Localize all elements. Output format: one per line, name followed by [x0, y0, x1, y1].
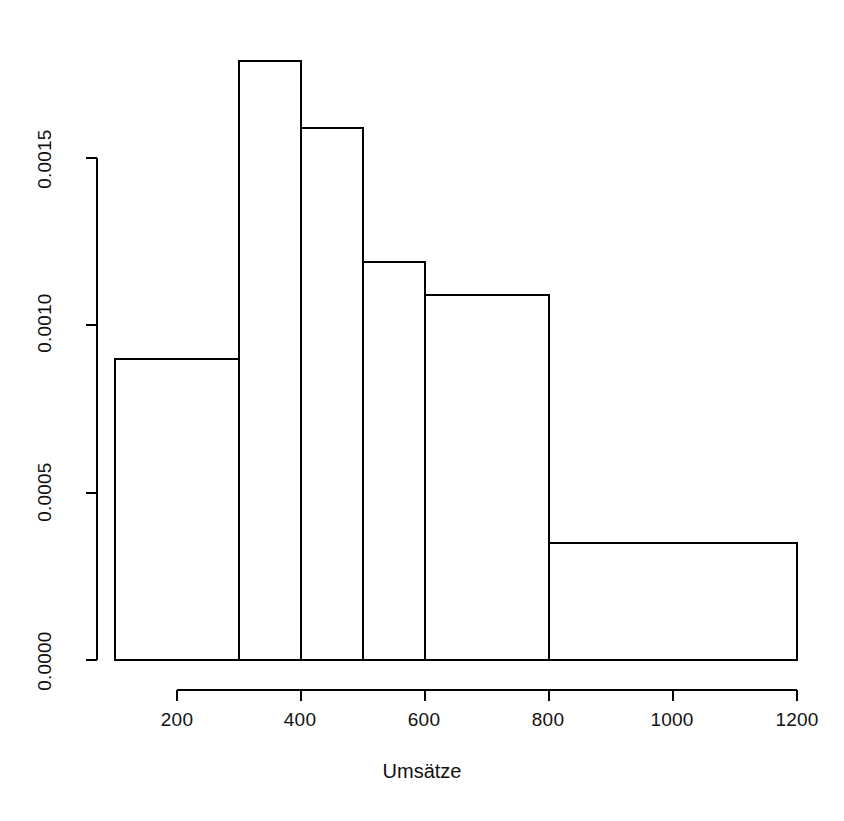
- histogram-bars: [115, 61, 797, 660]
- x-axis-title: Umsätze: [377, 760, 467, 783]
- histogram-bar: [363, 262, 425, 660]
- x-tick-label-3: 800: [508, 709, 588, 731]
- y-tick-label-3: 0.0015: [34, 113, 56, 205]
- y-tick-label-1: 0.0005: [34, 446, 56, 538]
- histogram-bar: [239, 61, 301, 660]
- histogram-canvas: [0, 0, 844, 821]
- x-tick-label-0: 200: [137, 709, 217, 731]
- x-tick-label-1: 400: [260, 709, 340, 731]
- y-tick-label-0: 0.0000: [34, 615, 56, 707]
- histogram-plot: 0.0000 0.0005 0.0010 0.0015 200 400 600 …: [0, 0, 844, 821]
- histogram-bar: [549, 543, 797, 660]
- y-tick-label-2: 0.0010: [34, 277, 56, 369]
- x-axis: [177, 690, 797, 701]
- x-tick-label-5: 1200: [757, 709, 837, 731]
- histogram-bar: [301, 128, 363, 660]
- histogram-bar: [115, 359, 239, 660]
- y-axis: [86, 158, 97, 660]
- histogram-bar: [425, 295, 549, 660]
- x-tick-label-4: 1000: [632, 709, 712, 731]
- x-tick-label-2: 600: [384, 709, 464, 731]
